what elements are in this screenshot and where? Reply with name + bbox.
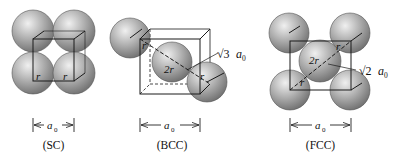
fcc-dimension [290, 118, 351, 132]
sc-panel: r r a 0 (SC) [12, 10, 95, 152]
sc-caption: (SC) [43, 139, 65, 152]
fcc-caption: (FCC) [306, 139, 336, 152]
bcc-diagonal-label-root: √3 [217, 47, 230, 61]
bcc-center-radius-label: 2r [164, 63, 175, 75]
fcc-panel: r 2r r √2 a 0 a 0 (FCC) [269, 13, 388, 152]
bcc-center-sphere [152, 42, 192, 82]
sc-radius-label: r [63, 70, 68, 82]
bcc-dimension [140, 118, 200, 132]
bcc-caption: (BCC) [157, 139, 188, 152]
fcc-center-radius-label: 2r [309, 54, 320, 66]
unit-cell-diagram: r r a 0 (SC) [0, 0, 405, 157]
fcc-face-sphere [299, 40, 341, 82]
bcc-panel: r 2r r √3 a 0 a 0 (BCC) [110, 18, 246, 152]
bcc-diagonal-label-sub: 0 [242, 54, 246, 63]
sc-radius-label: r [36, 70, 41, 82]
fcc-dimension-label: a [315, 119, 321, 131]
fcc-diagonal-label-root: √2 [359, 64, 372, 78]
fcc-radius-label: r [300, 76, 305, 88]
fcc-dimension-subscript: 0 [322, 126, 326, 134]
bcc-radius-label: r [142, 39, 147, 51]
bcc-dimension-label: a [164, 119, 170, 131]
fcc-radius-label: r [336, 40, 341, 52]
bcc-radius-label: r [200, 70, 205, 82]
sc-dimension-subscript: 0 [54, 126, 58, 134]
fcc-diagonal-label-sub: 0 [384, 71, 388, 80]
sc-dimension-label: a [47, 119, 53, 131]
bcc-dimension-subscript: 0 [171, 126, 175, 134]
